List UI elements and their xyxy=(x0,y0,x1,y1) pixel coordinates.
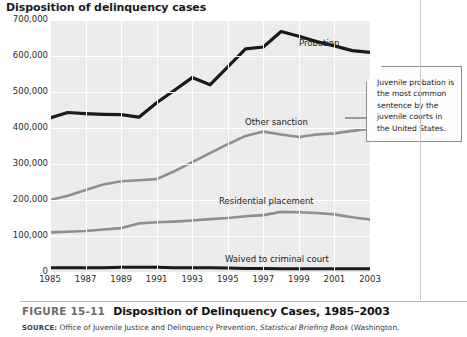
y-axis-tick-label: 700,000 xyxy=(2,14,48,24)
callout-box: Juvenile probation is the most common se… xyxy=(366,66,462,142)
y-axis-tick-label: 300,000 xyxy=(2,158,48,168)
gridline-vertical xyxy=(370,20,371,272)
series-label-residential-placement: Residential placement xyxy=(219,196,314,206)
gridline-vertical xyxy=(192,20,193,272)
y-axis-tick-label: 400,000 xyxy=(2,122,48,132)
source-line: SOURCE: Office of Juvenile Justice and D… xyxy=(22,323,467,332)
gridline-vertical xyxy=(121,20,122,272)
x-axis-tick-label: 1989 xyxy=(110,274,132,284)
series-label-other-sanction: Other sanction xyxy=(245,117,308,127)
column-divider-rule xyxy=(420,0,421,300)
y-axis: 700,000600,000500,000400,000300,000200,0… xyxy=(0,0,48,292)
y-axis-tick-label: 100,000 xyxy=(2,230,48,240)
caption-divider xyxy=(20,301,467,302)
figure-caption: FIGURE 15-11 Disposition of Delinquency … xyxy=(22,305,462,321)
gridline-vertical xyxy=(50,20,51,272)
callout-pointer-line xyxy=(345,117,368,119)
callout-text: Juvenile probation is the most common se… xyxy=(377,77,456,134)
gridline-vertical xyxy=(334,20,335,272)
x-axis-tick-label: 1985 xyxy=(39,274,61,284)
x-axis-tick-label: 2001 xyxy=(324,274,346,284)
gridline-horizontal xyxy=(50,128,370,129)
gridline-vertical xyxy=(299,20,300,272)
series-line-waived-to-criminal-court xyxy=(50,267,370,268)
gridline-horizontal xyxy=(50,236,370,237)
x-axis: 1985198719891991199319951997199920012003 xyxy=(50,274,380,290)
source-label: SOURCE: xyxy=(22,324,57,332)
source-text-part1: Office of Juvenile Justice and Delinquen… xyxy=(60,323,258,332)
figure-block: Disposition of delinquency cases 700,000… xyxy=(0,0,467,337)
series-line-residential-placement xyxy=(50,212,370,233)
x-axis-tick-label: 1999 xyxy=(288,274,310,284)
y-axis-tick-label: 500,000 xyxy=(2,86,48,96)
gridline-horizontal xyxy=(50,164,370,165)
gridline-vertical xyxy=(86,20,87,272)
gridline-vertical xyxy=(157,20,158,272)
source-text-italic: Statistical Briefing Book xyxy=(260,323,348,332)
y-axis-tick-label: 200,000 xyxy=(2,194,48,204)
gridline-horizontal xyxy=(50,56,370,57)
x-axis-tick-label: 1987 xyxy=(75,274,97,284)
x-axis-tick-label: 1997 xyxy=(253,274,275,284)
gridline-horizontal xyxy=(50,272,370,273)
figure-title: Disposition of Delinquency Cases, 1985–2… xyxy=(113,305,390,318)
gridline-horizontal xyxy=(50,92,370,93)
x-axis-tick-label: 1993 xyxy=(181,274,203,284)
gridline-horizontal xyxy=(50,20,370,21)
chart-lines xyxy=(50,20,370,272)
x-axis-tick-label: 2003 xyxy=(359,274,381,284)
gridline-vertical xyxy=(263,20,264,272)
gridline-horizontal xyxy=(50,200,370,201)
y-axis-tick-label: 600,000 xyxy=(2,50,48,60)
figure-number: FIGURE 15-11 xyxy=(22,305,105,317)
series-label-probation: Probation xyxy=(299,38,339,48)
source-text-part2: (Washington, xyxy=(351,323,400,332)
x-axis-tick-label: 1995 xyxy=(217,274,239,284)
gridline-vertical xyxy=(228,20,229,272)
series-label-waived: Waived to criminal court xyxy=(225,254,329,264)
plot-area xyxy=(50,20,370,272)
x-axis-tick-label: 1991 xyxy=(146,274,168,284)
